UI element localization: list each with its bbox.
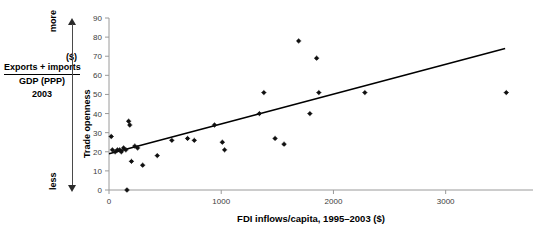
y-tick-label: 20 <box>93 148 102 157</box>
data-point <box>140 163 145 168</box>
data-point <box>314 56 319 61</box>
data-point <box>169 138 174 143</box>
data-point <box>504 90 509 95</box>
data-point <box>220 140 225 145</box>
data-point <box>257 111 262 116</box>
data-point <box>296 38 301 43</box>
y-tick-label: 50 <box>93 90 102 99</box>
x-tick-label: 2000 <box>325 197 343 206</box>
data-point <box>316 90 321 95</box>
y-tick-label: 90 <box>93 14 102 23</box>
x-axis-title: FDI inflows/capita, 1995–2003 ($) <box>109 213 513 224</box>
data-point <box>185 136 190 141</box>
data-point <box>307 111 312 116</box>
y-tick-label: 30 <box>93 129 102 138</box>
y-tick-label: 60 <box>93 71 102 80</box>
y-tick-label: 0 <box>98 186 103 195</box>
data-point <box>127 122 132 127</box>
data-point <box>129 159 134 164</box>
x-tick-label: 3000 <box>437 197 455 206</box>
data-point <box>155 153 160 158</box>
chart-figure: Exports + imports GDP (PPP) 2003 ($) mor… <box>0 0 536 238</box>
data-point <box>281 142 286 147</box>
y-tick-label: 70 <box>93 52 102 61</box>
x-tick-label: 1000 <box>212 197 230 206</box>
scatter-plot-svg: 01020304050607080900100020003000 <box>0 0 536 238</box>
x-tick-label: 0 <box>107 197 112 206</box>
data-point <box>362 90 367 95</box>
data-point <box>192 138 197 143</box>
plot-area: 01020304050607080900100020003000 <box>0 0 536 238</box>
y-tick-label: 10 <box>93 167 102 176</box>
data-point <box>222 147 227 152</box>
data-point <box>124 187 129 192</box>
data-point <box>261 90 266 95</box>
trend-line <box>109 49 505 154</box>
data-point <box>126 119 131 124</box>
y-tick-label: 40 <box>93 110 102 119</box>
data-point <box>272 136 277 141</box>
y-tick-label: 80 <box>93 33 102 42</box>
